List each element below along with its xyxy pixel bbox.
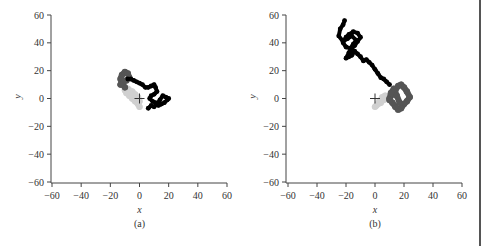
y-axis-title: y xyxy=(247,94,258,100)
y-tick-label: −40 xyxy=(263,149,279,160)
x-tick-label: 60 xyxy=(457,190,467,201)
y-tick-label: −60 xyxy=(28,177,44,188)
y-tick-label: 60 xyxy=(34,10,44,21)
x-axis-title: x xyxy=(136,204,142,215)
x-tick-label: −60 xyxy=(280,190,296,201)
x-tick-label: 60 xyxy=(222,190,232,201)
figure: −60−40−200204060−60−40−200204060xy(a)−60… xyxy=(0,0,483,246)
x-tick-label: 0 xyxy=(137,190,142,201)
y-tick-label: 20 xyxy=(269,65,279,76)
x-tick-label: 40 xyxy=(428,190,438,201)
y-tick-label: 60 xyxy=(269,10,279,21)
y-tick-label: 20 xyxy=(34,65,44,76)
y-tick-label: −60 xyxy=(263,177,279,188)
x-tick-label: 0 xyxy=(373,190,378,201)
x-tick-label: 20 xyxy=(399,190,409,201)
trajectory-series-3 xyxy=(336,18,392,87)
x-tick-label: 40 xyxy=(193,190,203,201)
x-tick-label: 20 xyxy=(164,190,174,201)
y-tick-label: 0 xyxy=(39,93,44,104)
x-tick-label: −20 xyxy=(338,190,354,201)
y-tick-label: 40 xyxy=(34,37,44,48)
y-tick-label: −20 xyxy=(28,121,44,132)
x-tick-label: −60 xyxy=(44,190,60,201)
x-tick-label: −40 xyxy=(309,190,325,201)
y-tick-label: 40 xyxy=(269,37,279,48)
x-axis-title: x xyxy=(372,204,378,215)
chart-panel-a: −60−40−200204060−60−40−200204060xy(a) xyxy=(12,10,232,231)
x-tick-label: −20 xyxy=(103,190,119,201)
page-edge-divider xyxy=(479,0,481,246)
x-tick-label: −40 xyxy=(73,190,89,201)
y-axis-title: y xyxy=(12,94,23,100)
panel-caption: (b) xyxy=(369,218,381,230)
y-tick-label: −20 xyxy=(263,121,279,132)
chart-panel-b: −60−40−200204060−60−40−200204060xy(b) xyxy=(247,10,467,231)
y-tick-label: −40 xyxy=(28,149,44,160)
panel-caption: (a) xyxy=(134,218,145,230)
y-tick-label: 0 xyxy=(274,93,279,104)
